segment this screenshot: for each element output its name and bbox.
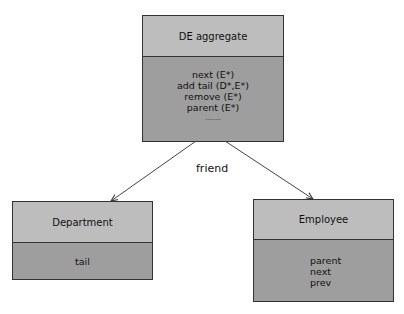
member-item: prev <box>310 277 331 288</box>
relation-label-friend: friend <box>196 162 228 175</box>
de-aggregate-title: DE aggregate <box>179 31 248 42</box>
method-item: next (E*) <box>192 69 234 80</box>
de-aggregate-class: DE aggregate next (E*) add tail (D*,E*) … <box>142 15 284 142</box>
arrow-to-department <box>111 141 196 201</box>
employee-class: Employee parent next prev <box>253 199 394 302</box>
method-item: remove (E*) <box>184 91 241 102</box>
method-item: add tail (D*,E*) <box>177 80 249 91</box>
member-item: next <box>310 266 331 277</box>
method-item: parent (E*) <box>187 102 239 113</box>
de-aggregate-methods: next (E*) add tail (D*,E*) remove (E*) p… <box>143 57 283 141</box>
employee-title: Employee <box>299 214 349 225</box>
member-item: tail <box>75 256 90 267</box>
department-members: tail <box>13 243 152 279</box>
department-title: Department <box>52 217 113 228</box>
employee-header: Employee <box>254 200 393 240</box>
department-class: Department tail <box>12 201 153 280</box>
department-header: Department <box>13 202 152 243</box>
employee-members: parent next prev <box>254 240 393 301</box>
method-ellipsis: ........ <box>205 113 220 122</box>
arrow-to-employee <box>225 141 313 199</box>
member-item: parent <box>310 255 341 266</box>
de-aggregate-header: DE aggregate <box>143 16 283 57</box>
